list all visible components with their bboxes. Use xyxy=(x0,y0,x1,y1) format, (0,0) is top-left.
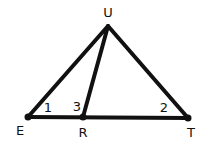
angle-label-2: 2 xyxy=(160,100,168,115)
point-T xyxy=(185,115,192,122)
triangle-diagram: U E R T 1 3 2 xyxy=(0,0,209,153)
label-U: U xyxy=(103,5,113,20)
segment-UT xyxy=(108,26,188,118)
segment-ET xyxy=(28,117,188,118)
angle-label-1: 1 xyxy=(44,100,52,115)
label-T: T xyxy=(186,125,195,140)
point-E xyxy=(25,114,32,121)
label-E: E xyxy=(16,123,24,138)
label-R: R xyxy=(78,125,87,140)
angle-label-3: 3 xyxy=(73,99,81,114)
point-R xyxy=(80,114,87,121)
